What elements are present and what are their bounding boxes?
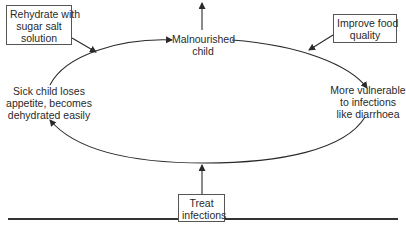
cycle-arrow-malnourished-to-vulnerable [232,40,367,88]
more-vulnerable-label: More vulnerable to infections like diarr… [330,84,406,120]
vulnerable-line-3: like diarrhoea [330,108,406,120]
improve-food-box: Improve food quality [333,14,397,43]
vulnerable-line-1: More vulnerable [330,84,406,96]
vulnerable-line-2: to infections [330,96,406,108]
rehydrate-line-2: sugar salt [10,20,68,32]
treat-infections-line-1: Treat [182,197,221,209]
rehydrate-line-1: Rehydrate with [10,8,68,20]
improve-food-arrow [309,35,333,50]
sick-line-2: appetite, becomes [6,97,92,109]
treat-infections-line-2: infections [182,209,221,221]
improve-food-line-2: quality [337,29,393,41]
sick-line-3: dehydrated easily [6,109,92,121]
treat-infections-box: Treat infections [178,194,225,222]
rehydrate-box: Rehydrate with sugar salt solution [6,5,72,45]
improve-food-line-1: Improve food [337,17,393,29]
malnourished-line-1: Malnourished [172,33,234,45]
rehydrate-arrow [72,38,96,52]
malnourished-child-label: Malnourished child [172,33,234,57]
cycle-arrow-vulnerable-to-sick [50,117,365,163]
sick-line-1: Sick child loses [6,85,92,97]
malnourished-line-2: child [172,45,234,57]
cycle-arrow-sick-to-malnourished [50,40,172,85]
rehydrate-line-3: solution [10,32,68,44]
sick-child-label: Sick child loses appetite, becomes dehyd… [6,85,92,121]
